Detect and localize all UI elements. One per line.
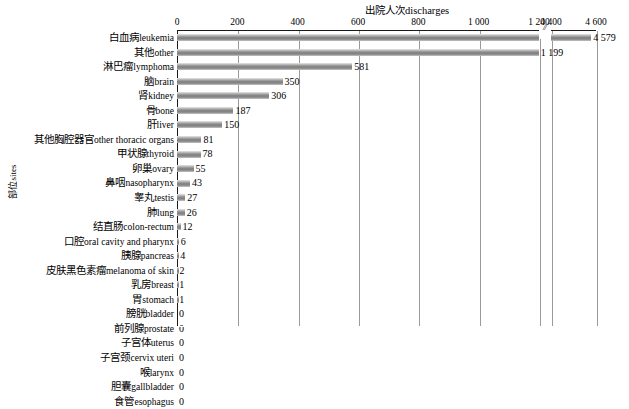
bar-segment bbox=[551, 34, 591, 41]
category-label-cn: 子宫体 bbox=[121, 337, 151, 348]
category-label-en: melanoma of skin bbox=[106, 266, 174, 276]
category-label-cn: 膀胱 bbox=[126, 308, 146, 319]
bar bbox=[177, 107, 233, 114]
category-label-en: oral cavity and pharynx bbox=[84, 237, 174, 247]
category-label: 胆囊gallbladder bbox=[111, 380, 177, 395]
category-label: 淋巴瘤lymphoma bbox=[103, 60, 177, 75]
bar-row: 甲状腺thyroid78 bbox=[0, 147, 629, 162]
category-label-cn: 白血病 bbox=[109, 32, 139, 43]
category-label-en: uterus bbox=[151, 338, 174, 348]
bar-row: 肝liver150 bbox=[0, 118, 629, 133]
x-axis-tick: 600 bbox=[351, 17, 365, 27]
x-axis-tick: 1 000 bbox=[468, 17, 489, 27]
bar-row: 食管esophagus0 bbox=[0, 395, 629, 409]
bar-row: 鼻咽nasopharynx43 bbox=[0, 176, 629, 191]
bar-value-label: 1 bbox=[177, 293, 184, 308]
category-label: 前列腺prostate bbox=[114, 322, 177, 337]
bar-row: 皮肤黑色素瘤melanoma of skin2 bbox=[0, 264, 629, 279]
category-label-cn: 淋巴瘤 bbox=[103, 61, 133, 72]
bar-row: 其他other1 199 bbox=[0, 46, 629, 61]
category-label: 口腔oral cavity and pharynx bbox=[64, 235, 177, 250]
category-label-en: esophagus bbox=[134, 397, 174, 407]
category-label: 结直肠colon-rectum bbox=[93, 220, 177, 235]
bar-row: 喉larynx0 bbox=[0, 366, 629, 381]
category-label-cn: 胰腺 bbox=[121, 250, 141, 261]
category-label-cn: 结直肠 bbox=[93, 221, 123, 232]
category-label-cn: 其他 bbox=[134, 47, 154, 58]
category-label: 子宫体uterus bbox=[121, 336, 177, 351]
bar-row: 其他胸腔器官other thoracic organs81 bbox=[0, 133, 629, 148]
chart-title: 出院人次discharges bbox=[365, 2, 449, 17]
category-label: 其他other bbox=[134, 46, 177, 61]
bar-value-label: 4 579 bbox=[591, 31, 616, 46]
category-label: 睾丸testis bbox=[134, 191, 177, 206]
bar bbox=[177, 49, 539, 56]
category-label-cn: 食管 bbox=[114, 396, 134, 407]
category-label-en: other bbox=[154, 48, 174, 58]
category-label-en: colon-rectum bbox=[123, 222, 174, 232]
category-label-en: kidney bbox=[148, 91, 174, 101]
bar-row: 肾kidney306 bbox=[0, 89, 629, 104]
axis-bottom bbox=[177, 326, 597, 327]
category-label-en: breast bbox=[151, 280, 174, 290]
category-label-cn: 睾丸 bbox=[134, 192, 154, 203]
category-label: 肝liver bbox=[147, 118, 177, 133]
category-label-en: thyroid bbox=[147, 149, 174, 159]
category-label-en: testis bbox=[154, 193, 174, 203]
category-label-en: leukemia bbox=[139, 33, 174, 43]
category-label: 胰腺pancreas bbox=[121, 249, 177, 264]
category-label-cn: 肾 bbox=[138, 90, 148, 101]
bar-value-label: 27 bbox=[185, 191, 197, 206]
category-label-en: brain bbox=[154, 77, 174, 87]
bar-value-label: 581 bbox=[352, 60, 369, 75]
bar-value-label: 2 bbox=[178, 264, 185, 279]
bar-row: 胃stomach1 bbox=[0, 293, 629, 308]
category-label: 子宫颈cervix uteri bbox=[100, 351, 177, 366]
bar-value-label: 150 bbox=[222, 118, 239, 133]
bar-row: 子宫体uterus0 bbox=[0, 336, 629, 351]
category-label-cn: 胆囊 bbox=[111, 381, 131, 392]
category-label-en: nasopharynx bbox=[125, 178, 174, 188]
bar bbox=[177, 63, 352, 70]
bar-value-label: 1 bbox=[177, 278, 184, 293]
bar-row: 膀胱bladder0 bbox=[0, 307, 629, 322]
category-label-en: pancreas bbox=[141, 251, 174, 261]
category-label: 皮肤黑色素瘤melanoma of skin bbox=[46, 264, 177, 279]
bar-row: 前列腺prostate0 bbox=[0, 322, 629, 337]
category-label-en: bone bbox=[156, 106, 174, 116]
category-label-cn: 子宫颈 bbox=[100, 352, 130, 363]
bar-value-label: 0 bbox=[177, 336, 184, 351]
category-label: 乳房breast bbox=[131, 278, 177, 293]
category-label-en: stomach bbox=[142, 295, 174, 305]
category-label-cn: 前列腺 bbox=[114, 323, 144, 334]
category-label-cn: 乳房 bbox=[131, 279, 151, 290]
category-label-en: ovary bbox=[152, 164, 174, 174]
bar-value-label: 187 bbox=[233, 104, 250, 119]
bar-value-label: 0 bbox=[177, 351, 184, 366]
x-axis-tick: 0 bbox=[175, 17, 180, 27]
category-label-en: prostate bbox=[144, 324, 174, 334]
bar-value-label: 350 bbox=[283, 75, 300, 90]
bar-row: 结直肠colon-rectum12 bbox=[0, 220, 629, 235]
category-label-cn: 甲状腺 bbox=[117, 148, 147, 159]
bar-row: 胰腺pancreas4 bbox=[0, 249, 629, 264]
category-label-cn: 肝 bbox=[147, 119, 157, 130]
category-label-en: other thoracic organs bbox=[94, 135, 174, 145]
category-label: 胃stomach bbox=[132, 293, 177, 308]
bar-row: 睾丸testis27 bbox=[0, 191, 629, 206]
bar-row: 肺lung26 bbox=[0, 206, 629, 221]
category-label-en: lymphoma bbox=[133, 62, 174, 72]
bar-value-label: 0 bbox=[177, 366, 184, 381]
bar-row: 胆囊gallbladder0 bbox=[0, 380, 629, 395]
bar bbox=[177, 92, 269, 99]
category-label-en: gallbladder bbox=[131, 382, 174, 392]
bar-value-label: 12 bbox=[181, 220, 193, 235]
category-label-cn: 其他胸腔器官 bbox=[34, 134, 94, 145]
bar-value-label: 0 bbox=[177, 322, 184, 337]
category-label-cn: 口腔 bbox=[64, 236, 84, 247]
category-label-en: larynx bbox=[150, 368, 174, 378]
bar-value-label: 306 bbox=[269, 89, 286, 104]
bar-value-label: 55 bbox=[194, 162, 206, 177]
bar-row: 骨bone187 bbox=[0, 104, 629, 119]
